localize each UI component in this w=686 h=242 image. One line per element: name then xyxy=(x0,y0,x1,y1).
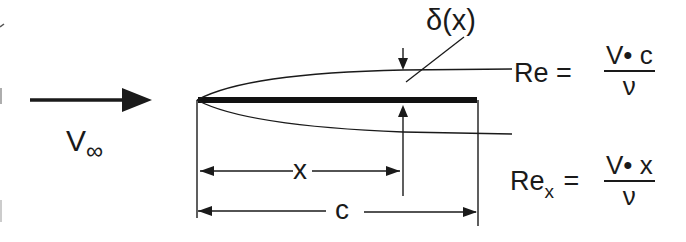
reynolds-number-denominator: ν xyxy=(623,73,636,99)
reynolds-number-numerator: V• c xyxy=(604,42,655,68)
c-dimension-label: c xyxy=(335,196,349,224)
boundary-layer-thickness-label: δ(x) xyxy=(426,6,476,35)
boundary-layer-lower-edge xyxy=(197,100,512,134)
freestream-infinity-subscript: ∞ xyxy=(86,137,103,164)
x-dimension-label: x xyxy=(293,156,307,184)
boundary-layer-upper-edge xyxy=(197,69,512,100)
freestream-velocity-symbol: V xyxy=(66,124,86,157)
freestream-velocity-label: V∞ xyxy=(66,126,103,156)
left-edge-marks xyxy=(0,24,4,222)
delta-leader-line xyxy=(406,37,464,82)
local-reynolds-number-lhs: Rex = xyxy=(510,168,579,195)
freestream-arrow-icon xyxy=(30,88,152,112)
local-reynolds-re: Re xyxy=(510,166,545,196)
reynolds-number-fraction: V• c ν xyxy=(604,42,655,99)
local-reynolds-denominator: ν xyxy=(623,183,636,209)
local-reynolds-fraction: V• x ν xyxy=(604,152,655,209)
local-reynolds-numerator: V• x xyxy=(604,152,655,178)
reynolds-number-lhs: Re = xyxy=(514,60,572,87)
local-reynolds-equals: = xyxy=(564,166,580,196)
local-reynolds-subscript: x xyxy=(545,181,555,202)
